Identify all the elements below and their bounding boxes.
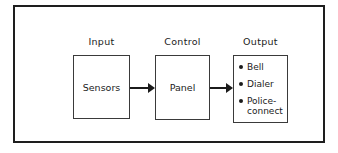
- list-item-label: Bell: [247, 62, 285, 72]
- panel-box-label: Panel: [170, 82, 196, 93]
- diagram-canvas: Input Control Output Sensors Panel Bell …: [0, 0, 338, 153]
- bullet-icon: [239, 82, 243, 86]
- panel-box: Panel: [155, 55, 210, 120]
- column-label-control: Control: [155, 36, 210, 47]
- bullet-icon: [239, 65, 243, 69]
- arrowhead-icon: [226, 83, 233, 93]
- column-label-input: Input: [73, 36, 130, 47]
- bullet-icon: [239, 99, 243, 103]
- arrow-panel-to-output: [210, 83, 233, 93]
- arrow-sensors-to-panel: [130, 83, 155, 93]
- list-item-dialer: Dialer: [239, 79, 285, 89]
- column-label-output: Output: [233, 36, 288, 47]
- list-item-label: Police-connect: [247, 96, 285, 116]
- arrow-shaft: [130, 87, 150, 89]
- list-item-police-connect: Police-connect: [239, 96, 285, 116]
- list-item-label: Dialer: [247, 79, 285, 89]
- arrowhead-icon: [148, 83, 155, 93]
- sensors-box-label: Sensors: [83, 82, 121, 93]
- list-item-bell: Bell: [239, 62, 285, 72]
- diagram-frame: Input Control Output Sensors Panel Bell …: [13, 5, 325, 143]
- output-box: Bell Dialer Police-connect: [233, 55, 288, 123]
- sensors-box: Sensors: [73, 55, 130, 119]
